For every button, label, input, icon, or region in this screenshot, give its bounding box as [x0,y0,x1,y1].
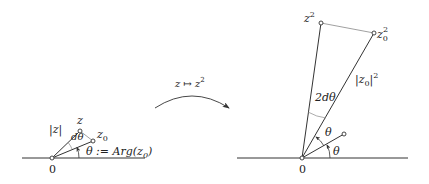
left-diagram: 0 z z0 |z| dθ θ := Arg(z0) [22,114,152,176]
theta-arc-lower [327,145,330,158]
right-diagram: 0 z2 z02 |z0|2 2dθ θ θ [237,10,408,176]
mapping-arrow: z ↦ z2 [155,76,229,108]
segment-0-z02 [302,33,374,158]
theta-definition-label: θ := Arg(z0) [86,145,152,160]
theta-label-lower: θ [333,145,340,158]
modulus-z-label: |z| [49,123,62,137]
z2-label: z2 [303,10,315,25]
origin-label-left: 0 [49,163,56,176]
theta-arc-upper [316,137,324,146]
theta-label-upper: θ [325,126,332,139]
complex-squaring-diagram: 0 z z0 |z| dθ θ := Arg(z0) z ↦ z2 0 z2 z… [0,0,429,184]
mapping-arc-arrow [155,96,229,108]
mapping-label: z ↦ z2 [174,76,205,89]
z0-label: z0 [96,128,108,143]
origin-point-left [50,156,54,160]
origin-point-right [300,156,304,160]
z0-point [91,139,95,143]
modulus-z0-squared-label: |z0|2 [355,71,378,88]
segment-z2-z02 [321,23,374,33]
z-label: z [76,114,83,127]
z0-point-right [342,132,346,136]
theta-arc-left [77,148,79,159]
z02-point [372,31,376,35]
two-dtheta-label: 2dθ [314,91,336,104]
origin-label-right: 0 [299,163,306,176]
z02-label: z02 [376,25,388,43]
two-dtheta-arc [308,112,326,118]
dtheta-label: dθ [71,131,83,142]
dtheta-arc [69,143,73,149]
z2-point [319,21,323,25]
